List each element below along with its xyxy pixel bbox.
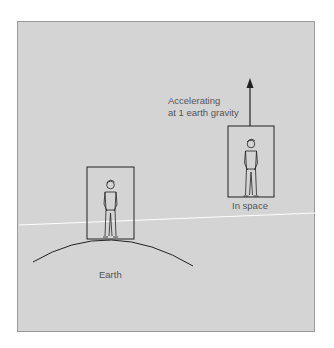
person-on-earth-icon <box>103 180 118 237</box>
person-in-space-icon <box>244 139 259 196</box>
acceleration-arrow-head-icon <box>247 78 254 88</box>
accelerating-label-line2: at 1 earth gravity <box>168 107 239 119</box>
space-label: In space <box>232 200 268 212</box>
horizon-line <box>19 213 315 225</box>
earth-surface-arc <box>33 240 193 266</box>
space-elevator-box <box>228 126 274 197</box>
earth-elevator-box <box>87 167 134 239</box>
earth-label: Earth <box>99 269 122 281</box>
accelerating-label-line1: Accelerating <box>168 95 220 107</box>
scene <box>0 0 334 348</box>
